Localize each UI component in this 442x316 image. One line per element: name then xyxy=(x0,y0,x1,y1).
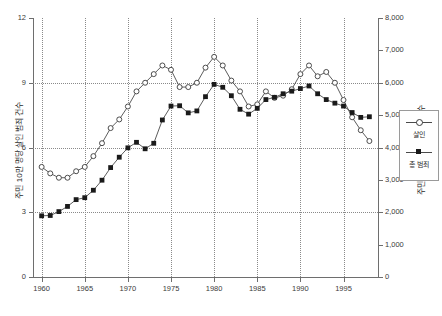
data-point-filled-square xyxy=(289,89,294,94)
data-point-filled-square xyxy=(238,107,243,112)
data-point-open-circle xyxy=(134,89,139,94)
data-point-open-circle xyxy=(65,175,70,180)
data-point-filled-square xyxy=(194,109,199,114)
data-point-filled-square xyxy=(263,97,268,102)
data-point-filled-square xyxy=(48,213,53,218)
data-point-filled-square xyxy=(39,213,44,218)
data-point-filled-square xyxy=(298,86,303,91)
data-point-filled-square xyxy=(255,106,260,111)
data-point-open-circle xyxy=(238,89,243,94)
data-point-filled-square xyxy=(315,91,320,96)
data-point-open-circle xyxy=(143,80,148,85)
data-point-open-circle xyxy=(91,154,96,159)
data-point-filled-square xyxy=(324,97,329,102)
legend-label-total-crime: 총 범죄 xyxy=(400,161,438,168)
data-point-open-circle xyxy=(203,65,208,70)
data-point-open-circle xyxy=(39,164,44,169)
data-point-filled-square xyxy=(125,145,130,150)
legend-swatch-filled-square-icon xyxy=(400,147,438,158)
data-point-filled-square xyxy=(74,197,79,202)
data-point-open-circle xyxy=(229,78,234,83)
legend-label-murder: 살인 xyxy=(400,131,438,138)
data-point-filled-square xyxy=(272,95,277,100)
data-point-filled-square xyxy=(281,91,286,96)
data-point-filled-square xyxy=(203,94,208,99)
legend-item-total-crime[interactable]: 총 범죄 xyxy=(400,147,438,168)
data-point-open-circle xyxy=(341,98,346,103)
legend-swatch-open-circle-icon xyxy=(400,117,438,128)
data-point-filled-square xyxy=(82,195,87,200)
data-point-open-circle xyxy=(367,139,372,144)
data-point-filled-square xyxy=(143,146,148,151)
data-point-open-circle xyxy=(160,63,165,68)
data-point-filled-square xyxy=(229,93,234,98)
data-point-open-circle xyxy=(212,54,217,59)
data-point-filled-square xyxy=(91,188,96,193)
data-point-open-circle xyxy=(48,171,53,176)
data-point-filled-square xyxy=(186,110,191,115)
data-point-open-circle xyxy=(332,80,337,85)
data-point-open-circle xyxy=(315,74,320,79)
series-total-crime xyxy=(39,82,372,218)
data-point-open-circle xyxy=(177,85,182,90)
data-point-filled-square xyxy=(367,114,372,119)
data-point-filled-square xyxy=(100,178,105,183)
data-point-open-circle xyxy=(246,104,251,109)
data-point-filled-square xyxy=(151,141,156,146)
series-murder xyxy=(39,54,372,180)
data-point-filled-square xyxy=(212,82,217,87)
data-point-open-circle xyxy=(194,80,199,85)
data-point-open-circle xyxy=(220,63,225,68)
data-point-open-circle xyxy=(108,126,113,131)
data-point-open-circle xyxy=(56,175,61,180)
chart-legend: 살인 총 범죄 xyxy=(399,110,439,181)
data-point-filled-square xyxy=(177,103,182,108)
data-point-open-circle xyxy=(186,85,191,90)
data-point-filled-square xyxy=(220,85,225,90)
data-point-open-circle xyxy=(82,164,87,169)
series-line xyxy=(42,84,370,215)
data-series-layer xyxy=(0,0,442,316)
data-point-open-circle xyxy=(117,117,122,122)
data-point-filled-square xyxy=(341,104,346,109)
data-point-filled-square xyxy=(307,84,312,89)
data-point-open-circle xyxy=(298,72,303,77)
data-point-open-circle xyxy=(169,67,174,72)
data-point-open-circle xyxy=(307,63,312,68)
data-point-open-circle xyxy=(125,104,130,109)
data-point-filled-square xyxy=(160,118,165,123)
data-point-filled-square xyxy=(134,140,139,145)
data-point-filled-square xyxy=(358,115,363,120)
data-point-filled-square xyxy=(65,204,70,209)
data-point-filled-square xyxy=(332,101,337,106)
data-point-open-circle xyxy=(350,115,355,120)
data-point-open-circle xyxy=(324,69,329,74)
data-point-open-circle xyxy=(263,89,268,94)
data-point-open-circle xyxy=(151,72,156,77)
legend-item-murder[interactable]: 살인 xyxy=(400,117,438,138)
data-point-filled-square xyxy=(246,112,251,117)
data-point-open-circle xyxy=(74,169,79,174)
data-point-filled-square xyxy=(56,209,61,214)
data-point-open-circle xyxy=(358,128,363,133)
chart-container: 03691201,0002,0003,0004,0005,0006,0007,0… xyxy=(0,0,442,316)
data-point-filled-square xyxy=(350,110,355,115)
data-point-open-circle xyxy=(100,141,105,146)
data-point-filled-square xyxy=(169,104,174,109)
data-point-filled-square xyxy=(117,155,122,160)
y-axis-left-title: 주민 10만 명당 살인 범죄 건수 xyxy=(16,80,24,220)
data-point-filled-square xyxy=(108,165,113,170)
